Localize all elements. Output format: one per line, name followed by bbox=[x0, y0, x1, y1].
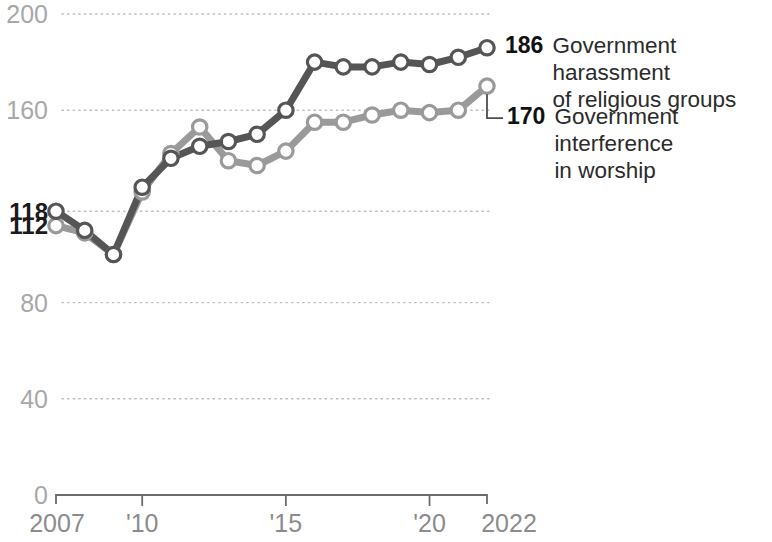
x-tick-label: 2007 bbox=[29, 509, 85, 537]
data-point-marker bbox=[221, 134, 235, 148]
data-point-marker bbox=[422, 57, 436, 71]
y-tick-label: 160 bbox=[6, 96, 48, 124]
chart-container: 04080160200118112 2007'10'15'202022 186 … bbox=[0, 0, 772, 542]
data-point-marker bbox=[394, 103, 408, 117]
y-axis-tick-labels: 04080160200118112 bbox=[6, 0, 48, 509]
data-point-marker bbox=[49, 204, 63, 218]
data-point-marker bbox=[221, 154, 235, 168]
data-point-marker bbox=[451, 103, 465, 117]
x-tick-label: 2022 bbox=[481, 509, 537, 537]
y-tick-label: 40 bbox=[20, 385, 48, 413]
x-tick-label: '20 bbox=[413, 509, 446, 537]
callout-bracket-group bbox=[487, 94, 503, 118]
data-point-marker bbox=[307, 55, 321, 69]
callout-bracket-interference bbox=[487, 94, 503, 118]
data-point-marker bbox=[336, 60, 350, 74]
data-point-marker bbox=[394, 55, 408, 69]
data-point-marker bbox=[193, 120, 207, 134]
legend-value-interference: 170 bbox=[507, 103, 545, 130]
data-point-marker bbox=[307, 115, 321, 129]
data-point-marker bbox=[193, 139, 207, 153]
y-tick-label: 200 bbox=[6, 0, 48, 28]
series-lines-group bbox=[56, 48, 487, 255]
data-point-marker bbox=[49, 218, 63, 232]
y-tick-label: 80 bbox=[20, 289, 48, 317]
data-point-marker bbox=[365, 108, 379, 122]
x-tick-label: '15 bbox=[270, 509, 303, 537]
data-point-marker bbox=[451, 50, 465, 64]
data-point-marker bbox=[164, 151, 178, 165]
series-markers-group bbox=[49, 41, 494, 262]
data-point-marker bbox=[250, 127, 264, 141]
x-axis-line bbox=[56, 495, 487, 504]
data-point-marker bbox=[78, 223, 92, 237]
data-point-marker bbox=[250, 158, 264, 172]
data-point-marker bbox=[480, 41, 494, 55]
data-point-marker bbox=[279, 144, 293, 158]
legend-item-interference: 170 Government interference in worship bbox=[507, 103, 772, 184]
series-line bbox=[56, 48, 487, 255]
data-point-marker bbox=[422, 105, 436, 119]
x-axis bbox=[56, 495, 487, 506]
legend-item-harassment: 186 Government harassment of religious g… bbox=[505, 32, 772, 113]
data-point-marker bbox=[336, 115, 350, 129]
data-point-marker bbox=[106, 247, 120, 261]
data-point-marker bbox=[279, 103, 293, 117]
y-tick-label-emphasis: 112 bbox=[9, 212, 48, 239]
legend-value-harassment: 186 bbox=[505, 32, 543, 59]
data-point-marker bbox=[365, 60, 379, 74]
legend-label-interference: Government interference in worship bbox=[554, 103, 772, 184]
y-tick-label: 0 bbox=[34, 481, 48, 509]
x-axis-tick-labels: 2007'10'15'202022 bbox=[29, 509, 537, 537]
data-point-marker bbox=[135, 180, 149, 194]
x-tick-label: '10 bbox=[126, 509, 159, 537]
data-point-marker bbox=[480, 79, 494, 93]
legend-label-harassment: Government harassment of religious group… bbox=[552, 32, 772, 113]
